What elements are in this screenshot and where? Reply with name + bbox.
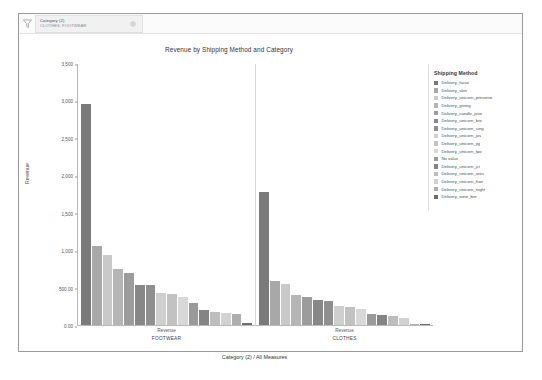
- bar-group: [81, 64, 252, 325]
- legend-item[interactable]: Delivery_unicorn_night: [434, 185, 516, 193]
- legend-item[interactable]: Delivery_unicorn_preserve: [434, 94, 516, 102]
- legend-label: Delivery_giving: [441, 103, 470, 108]
- legend-label: Delivery_skin: [441, 88, 467, 93]
- bar[interactable]: [345, 307, 355, 325]
- panel-measure-label: Revenue: [78, 328, 255, 335]
- legend-item[interactable]: Delivery_candle_jove: [434, 109, 516, 117]
- bar[interactable]: [356, 309, 366, 325]
- bar[interactable]: [281, 284, 291, 325]
- bar[interactable]: [156, 293, 166, 325]
- legend-item[interactable]: Delivery_skin: [434, 87, 516, 95]
- panel-category-label: CLOTHES: [256, 335, 433, 343]
- dashboard-window: Category (2) CLOTHES, FOOTWEAR Revenue b…: [18, 13, 523, 352]
- y-axis-tick: 2,000: [62, 174, 78, 179]
- legend: Shipping Method Delivery_facialDelivery_…: [434, 70, 516, 201]
- legend-swatch: [434, 164, 438, 168]
- visualization: Revenue by Shipping Method and Category …: [19, 34, 522, 351]
- plot-area: Revenue FOOTWEAR Revenue CLOTHES: [77, 64, 432, 326]
- y-axis-tick: 1,500: [62, 211, 78, 216]
- legend-label: Delivery_facial: [441, 80, 469, 85]
- legend-item[interactable]: Delivery_unicorn_ares: [434, 170, 516, 178]
- panel-labels: Revenue CLOTHES: [256, 325, 433, 343]
- bar[interactable]: [334, 306, 344, 325]
- panel-footwear: Revenue FOOTWEAR: [78, 64, 255, 326]
- bar[interactable]: [167, 294, 177, 325]
- filter-bar: Category (2) CLOTHES, FOOTWEAR: [19, 14, 522, 34]
- y-axis-title: Revenue: [24, 163, 30, 184]
- bar[interactable]: [92, 246, 102, 325]
- bar[interactable]: [221, 313, 231, 325]
- filter-chip-category[interactable]: Category (2) CLOTHES, FOOTWEAR: [35, 15, 143, 33]
- bar[interactable]: [81, 104, 91, 325]
- bar[interactable]: [232, 314, 242, 325]
- legend-item[interactable]: Delivery_unicorn_bre: [434, 117, 516, 125]
- bar[interactable]: [399, 318, 409, 325]
- bar[interactable]: [189, 303, 199, 325]
- legend-swatch: [434, 172, 438, 176]
- gear-icon[interactable]: [130, 21, 136, 27]
- legend-title: Shipping Method: [434, 70, 516, 76]
- bar[interactable]: [291, 295, 301, 325]
- legend-swatch: [434, 111, 438, 115]
- legend-item[interactable]: Delivery_facial: [434, 79, 516, 87]
- legend-item[interactable]: Delivery_unicorn_sing: [434, 125, 516, 133]
- legend-swatch: [434, 195, 438, 199]
- bar[interactable]: [313, 300, 323, 325]
- panel-category-label: FOOTWEAR: [78, 335, 255, 343]
- bar[interactable]: [270, 281, 280, 325]
- legend-swatch: [434, 149, 438, 153]
- legend-item[interactable]: Delivery_unicorn_jig: [434, 140, 516, 148]
- legend-swatch: [434, 96, 438, 100]
- y-axis: 0.00500.001,0001,5002,0002,5003,0003,500: [31, 64, 77, 326]
- chart-title: Revenue by Shipping Method and Category: [19, 46, 439, 53]
- bar[interactable]: [124, 273, 134, 325]
- bar[interactable]: [388, 316, 398, 325]
- y-axis-tick: 0.00: [64, 324, 77, 329]
- y-axis-tick: 3,000: [62, 99, 78, 104]
- legend-item[interactable]: No value: [434, 155, 516, 163]
- legend-item[interactable]: Delivery_unicorn_jov: [434, 132, 516, 140]
- bar[interactable]: [210, 312, 220, 325]
- bar[interactable]: [302, 297, 312, 325]
- filter-chip-title: Category (2): [40, 19, 86, 23]
- legend-divider: [428, 64, 429, 211]
- legend-label: Delivery_unicorn_han: [441, 179, 483, 184]
- legend-swatch: [434, 157, 438, 161]
- filter-chip-texts: Category (2) CLOTHES, FOOTWEAR: [40, 19, 86, 29]
- bar[interactable]: [113, 269, 123, 325]
- panel-labels: Revenue FOOTWEAR: [78, 325, 255, 343]
- bar[interactable]: [178, 297, 188, 325]
- legend-item[interactable]: Delivery_wine_bre: [434, 193, 516, 201]
- legend-label: Delivery_unicorn_bre: [441, 118, 482, 123]
- legend-swatch: [434, 88, 438, 92]
- legend-item[interactable]: Delivery_unicorn_jct: [434, 163, 516, 171]
- legend-items: Delivery_facialDelivery_skinDelivery_uni…: [434, 79, 516, 201]
- legend-item[interactable]: Delivery_giving: [434, 102, 516, 110]
- legend-label: Delivery_unicorn_jig: [441, 141, 480, 146]
- bar[interactable]: [324, 301, 334, 325]
- legend-swatch: [434, 187, 438, 191]
- bar[interactable]: [135, 285, 145, 325]
- y-axis-tick: 1,000: [62, 249, 78, 254]
- bar[interactable]: [259, 192, 269, 325]
- legend-label: Delivery_unicorn_jct: [441, 164, 480, 169]
- legend-swatch: [434, 81, 438, 85]
- panel-measure-label: Revenue: [256, 328, 433, 335]
- legend-label: Delivery_unicorn_jov: [441, 133, 481, 138]
- legend-item[interactable]: Delivery_unicorn_fpo: [434, 147, 516, 155]
- bar[interactable]: [146, 285, 156, 325]
- filter-chip-subtitle: CLOTHES, FOOTWEAR: [40, 24, 86, 28]
- legend-label: Delivery_unicorn_night: [441, 187, 485, 192]
- legend-swatch: [434, 126, 438, 130]
- legend-label: Delivery_candle_jove: [441, 111, 482, 116]
- bar[interactable]: [377, 315, 387, 325]
- bar[interactable]: [103, 255, 113, 325]
- legend-swatch: [434, 134, 438, 138]
- legend-swatch: [434, 103, 438, 107]
- bar[interactable]: [199, 310, 209, 325]
- bar-group: [259, 64, 430, 325]
- y-axis-tick: 3,500: [62, 62, 78, 67]
- funnel-icon[interactable]: [23, 19, 32, 29]
- bar[interactable]: [367, 314, 377, 325]
- legend-item[interactable]: Delivery_unicorn_han: [434, 178, 516, 186]
